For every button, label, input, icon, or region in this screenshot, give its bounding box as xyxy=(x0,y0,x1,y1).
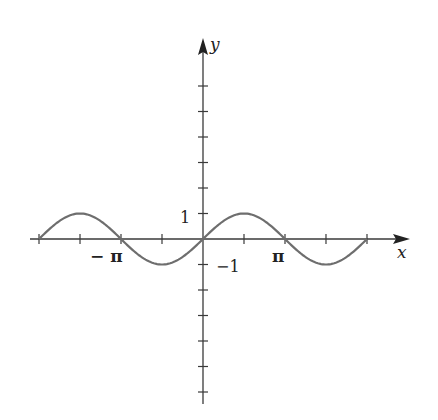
tick-label-pi: π xyxy=(272,246,284,266)
x-axis-label: x xyxy=(397,242,407,262)
tick-label-neg-pi: − π xyxy=(90,246,123,266)
tick-label-one: 1 xyxy=(180,208,190,227)
sine-graph: y x − π π 1 −1 xyxy=(0,0,438,420)
y-axis-label: y xyxy=(209,34,220,54)
tick-label-neg-one: −1 xyxy=(216,257,240,276)
